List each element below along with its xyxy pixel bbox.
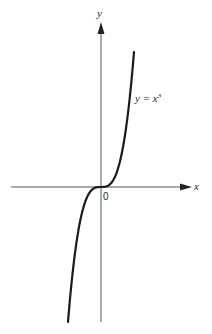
y-axis-arrow-icon	[98, 22, 105, 34]
cubic-function-plot	[0, 0, 212, 334]
curve-label: y = x3	[135, 93, 161, 104]
x-axis-arrow-icon	[180, 184, 192, 191]
curve-label-text: y = x	[135, 92, 158, 104]
curve-label-exponent: 3	[158, 92, 162, 100]
x-axis-label: x	[194, 181, 199, 192]
origin-label: 0	[103, 192, 109, 202]
y-axis-label: y	[97, 8, 102, 19]
